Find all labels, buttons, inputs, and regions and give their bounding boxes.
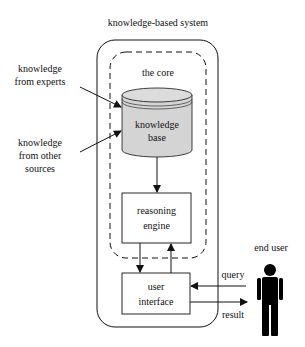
input-experts-line2: from experts xyxy=(15,76,66,87)
knowledge-based-system-diagram: knowledge-based system the core knowledg… xyxy=(0,0,305,347)
user-interface-label-line1: user xyxy=(148,281,165,292)
experts-input-arrow xyxy=(80,87,121,107)
diagram-title: knowledge-based system xyxy=(108,17,208,28)
person-icon xyxy=(257,264,283,336)
reasoning-engine-box xyxy=(122,193,191,243)
user-interface-label-line2: interface xyxy=(139,296,175,307)
core-label: the core xyxy=(142,67,174,78)
reasoning-engine-label-line2: engine xyxy=(143,220,170,231)
result-label: result xyxy=(222,309,244,320)
query-label: query xyxy=(222,269,245,280)
input-other-line3: sources xyxy=(25,163,55,174)
input-other-line1: knowledge xyxy=(18,137,62,148)
reasoning-engine-label-line1: reasoning xyxy=(137,205,176,216)
end-user-label: end user xyxy=(254,242,288,253)
input-experts-line1: knowledge xyxy=(18,63,62,74)
other-sources-input-arrow xyxy=(80,131,121,152)
knowledge-base-label-line1: knowledge xyxy=(135,119,179,130)
knowledge-base-label-line2: base xyxy=(148,132,166,143)
input-other-line2: from other xyxy=(19,150,62,161)
user-interface-box xyxy=(122,273,190,314)
